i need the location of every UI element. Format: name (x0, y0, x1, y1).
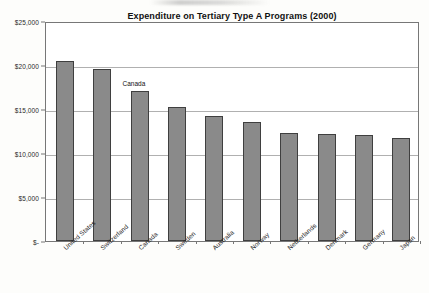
bar-japan (392, 138, 410, 241)
bar-norway (243, 122, 261, 241)
bar-united-states (56, 61, 74, 241)
chart-title: Expenditure on Tertiary Type A Programs … (45, 11, 419, 21)
annotation-canada: Canada (123, 80, 146, 87)
scan-artifact (150, 0, 270, 5)
bar-australia (205, 116, 223, 241)
y-axis: $25,000$20,000$15,000$10,000$5,000$- (0, 22, 45, 242)
bar-netherlands (280, 133, 298, 241)
y-tick-label: $5,000 (0, 195, 39, 202)
bar-canada (131, 91, 149, 241)
bar-denmark (318, 134, 336, 241)
plot-area (45, 22, 419, 242)
y-tick-label: $20,000 (0, 63, 39, 70)
y-tick-label: $15,000 (0, 107, 39, 114)
bar-germany (355, 135, 373, 241)
bar-chart: Expenditure on Tertiary Type A Programs … (0, 0, 429, 293)
y-tick-label: $10,000 (0, 151, 39, 158)
bar-switzerland (93, 69, 111, 241)
bar-sweden (168, 107, 186, 241)
y-tick-label: $25,000 (0, 19, 39, 26)
x-axis: United StatesSwitzerlandCanadaSwedenAust… (0, 242, 429, 293)
